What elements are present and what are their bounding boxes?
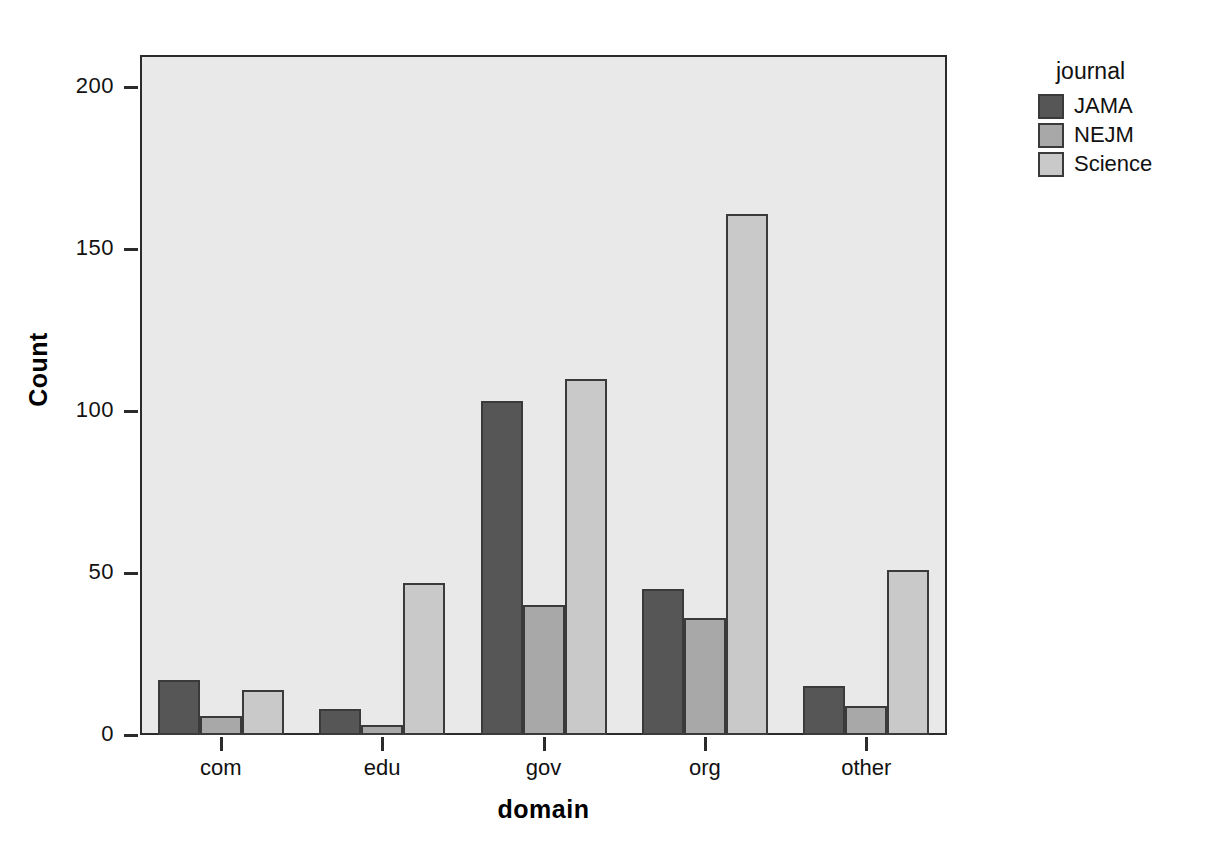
bar <box>684 618 726 735</box>
y-tick-mark <box>124 86 138 89</box>
legend-title: journal <box>1056 58 1203 85</box>
bar <box>361 725 403 735</box>
x-tick-label: com <box>141 755 301 781</box>
y-axis-label: Count <box>24 310 53 430</box>
bar <box>242 690 284 735</box>
legend-label: Science <box>1074 151 1152 177</box>
bar <box>481 401 523 735</box>
x-tick-label: org <box>625 755 785 781</box>
bar <box>887 570 929 735</box>
bar <box>523 605 565 735</box>
bar <box>403 583 445 735</box>
x-tick-label: edu <box>302 755 462 781</box>
x-tick-mark <box>220 737 223 751</box>
legend-item[interactable]: JAMA <box>1038 93 1203 119</box>
legend-item[interactable]: NEJM <box>1038 122 1203 148</box>
y-tick-label: 50 <box>89 559 114 585</box>
bar <box>642 589 684 735</box>
y-tick-label: 0 <box>101 721 114 747</box>
x-tick-mark <box>543 737 546 751</box>
x-tick-mark <box>865 737 868 751</box>
bar <box>200 716 242 735</box>
legend-label: NEJM <box>1074 122 1134 148</box>
legend-swatch <box>1038 123 1064 148</box>
y-tick-mark <box>124 734 138 737</box>
bar <box>158 680 200 735</box>
bar <box>803 686 845 735</box>
x-tick-label: other <box>786 755 946 781</box>
x-tick-label: gov <box>464 755 624 781</box>
bar <box>319 709 361 735</box>
legend: journal JAMANEJMScience <box>1038 58 1203 180</box>
bar <box>845 706 887 735</box>
x-tick-mark <box>704 737 707 751</box>
bar <box>565 379 607 735</box>
legend-swatch <box>1038 152 1064 177</box>
legend-swatch <box>1038 94 1064 119</box>
y-tick-mark <box>124 248 138 251</box>
y-tick-mark <box>124 410 138 413</box>
y-tick-mark <box>124 572 138 575</box>
y-tick-label: 200 <box>76 73 114 99</box>
x-axis-label: domain <box>140 795 947 824</box>
y-tick-label: 150 <box>76 235 114 261</box>
y-tick-label: 100 <box>76 397 114 423</box>
legend-items: JAMANEJMScience <box>1038 93 1203 177</box>
bar <box>726 214 768 735</box>
legend-label: JAMA <box>1074 93 1133 119</box>
x-tick-mark <box>381 737 384 751</box>
legend-item[interactable]: Science <box>1038 151 1203 177</box>
bar-chart: Count 050100150200 comedugovorgother dom… <box>0 0 1209 851</box>
